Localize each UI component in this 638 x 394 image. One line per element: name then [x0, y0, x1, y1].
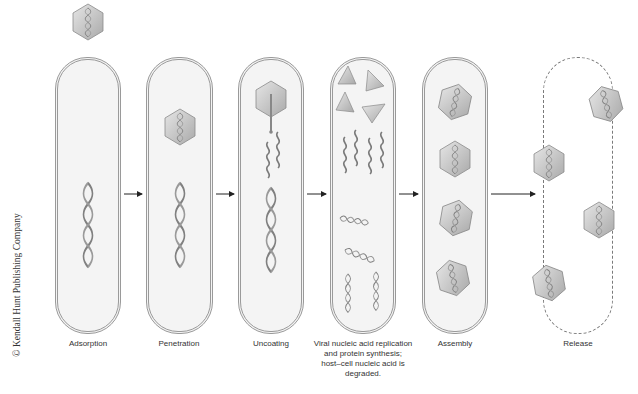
process-arrows	[0, 0, 638, 394]
